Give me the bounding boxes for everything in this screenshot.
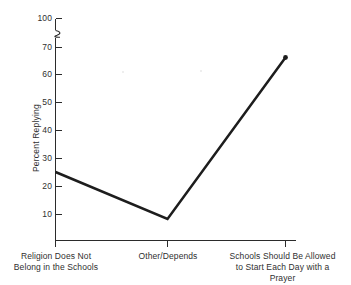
x-category-label-2-line1: Other/Depends	[126, 251, 210, 262]
y-tick-label-30: 30	[22, 154, 52, 163]
scan-speck	[122, 71, 124, 73]
y-tick-label-70: 70	[22, 43, 52, 52]
y-tick-label-100: 100	[22, 14, 52, 23]
data-series-line	[56, 58, 286, 220]
axis-break-icon	[55, 31, 60, 38]
y-tick-label-20: 20	[22, 182, 52, 191]
x-category-label-1-line2: Belong in the Schools	[0, 262, 112, 273]
data-point-marker-3	[283, 55, 288, 60]
y-tick-label-50: 50	[22, 98, 52, 107]
x-category-label-2: Other/Depends	[126, 251, 210, 262]
x-category-label-1-line1: Religion Does Not	[0, 251, 112, 262]
x-category-label-3: Schools Should Be Allowed to Start Each …	[214, 251, 351, 284]
x-category-label-3-line3: Prayer	[214, 273, 351, 284]
y-tick-label-40: 40	[22, 126, 52, 135]
x-category-label-1: Religion Does Not Belong in the Schools	[0, 251, 112, 273]
x-category-label-3-line1: Schools Should Be Allowed	[214, 251, 351, 262]
line-chart: Percent Replying 100 70 60 50 40 30 20 1…	[0, 0, 351, 285]
x-category-label-3-line2: to Start Each Day with a	[214, 262, 351, 273]
scan-speck	[200, 70, 202, 72]
y-tick-label-60: 60	[22, 70, 52, 79]
chart-canvas	[0, 0, 351, 285]
y-tick-label-10: 10	[22, 210, 52, 219]
